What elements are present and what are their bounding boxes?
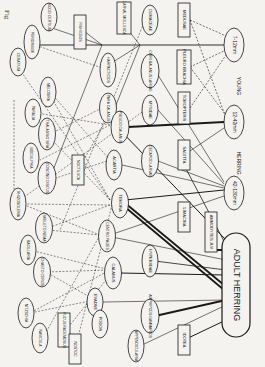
node-label: FISH EGGS (78, 22, 82, 42)
node-calanus: CALANUS (105, 257, 122, 289)
node-label: HARPACTICIDS (106, 57, 110, 83)
node-label: PSEUDO CALANUS (118, 111, 122, 144)
feeding-link (113, 45, 140, 62)
node-label: 12-42mm (232, 111, 238, 132)
node-label: LIMACINA (182, 208, 187, 227)
node-label: NOCTILUCA (76, 160, 80, 181)
node-hyperiidae: HYPERIIDAE (142, 245, 158, 277)
dashed-feeding-link (22, 204, 100, 235)
node-label: SKELETO NEMA (42, 214, 46, 242)
dashed-feeding-link (46, 270, 110, 272)
node-label: 42-130mm (232, 181, 238, 205)
node-thalass: THALASSIO SIRA (39, 118, 56, 150)
node-decapod: DECAPOD LARVAE (142, 145, 159, 178)
node-fishegg: FISH EGGS (74, 15, 86, 49)
node-cirripedia: CIRRI BALANUS LARVAE (141, 50, 159, 92)
node-sagitta: SAGITTA (178, 140, 190, 170)
node-peridinium: PERIDINIUM (24, 25, 40, 59)
node-label: CENTRO PAGES (105, 222, 109, 250)
node-fucus: FUCUS RACEMOSUS (58, 312, 70, 348)
node-adult: ADULT HERRING (222, 233, 250, 337)
dashed-feeding-link (30, 300, 95, 313)
node-label: APPENDICULARIA (134, 331, 138, 362)
node-label: IDOTEA (182, 333, 187, 348)
dashed-feeding-link (44, 235, 100, 336)
node-label: FUCUS RACEMOSUS (62, 312, 66, 348)
feeding-link (158, 110, 224, 184)
node-cumaceae: CUMACEAE (142, 5, 158, 35)
node-temora: TEMORA (112, 188, 129, 218)
node-label: RHIZOSOLENIA (16, 191, 20, 218)
node-label: BACILLARIA (26, 240, 30, 261)
node-tomopteris: TOMOPTERIS (178, 92, 190, 124)
feeding-link (158, 161, 224, 186)
node-label: NAVICULA (38, 329, 42, 347)
node-label: PODON (98, 317, 103, 332)
feeding-link (158, 75, 224, 182)
node-harpacticid: HARPACTICIDS (100, 53, 116, 87)
node-label: ADULT HERRING (232, 249, 242, 322)
node-idotea: IDOTEA (178, 325, 190, 355)
feeding-link (155, 300, 226, 316)
node-limacina: LIMACINA (178, 202, 190, 232)
node-chaeto: CHAETO CEROS (34, 257, 51, 287)
node-biddulphia: BIDDULPHIA (23, 143, 39, 173)
node-ammodytes: AMMODYTES JUV (205, 212, 217, 252)
node-bacillaria: BACILLARIA (20, 235, 36, 265)
node-label: PARA CALANUS (106, 95, 110, 122)
node-label: THALASSIO SIRA (45, 120, 49, 149)
node-label: AMPHIPODS GAMMARIDS (148, 294, 152, 338)
node-label: MELOSIRA (46, 83, 50, 102)
food-web-graph: ADULT HERRING7-12mm12-42mm42-130mmYOUNGH… (0, 0, 265, 367)
feeding-link (128, 122, 224, 127)
node-pleuro: PLEURO BRACHIA (177, 49, 191, 85)
node-label: NOSTOC (73, 342, 77, 357)
dashed-feeding-link (190, 20, 226, 118)
dashed-feeding-link (190, 50, 226, 67)
node-noctiluca: NOCTILUCA (72, 155, 84, 185)
node-label: COSCINO DISCUS (45, 163, 49, 194)
dashed-feeding-link (60, 20, 145, 230)
node-label: PARALIA (31, 106, 35, 121)
node-pseudocal: PSEUDO CALANUS (111, 111, 129, 144)
node-centropages: CENTRO PAGES (99, 220, 116, 252)
node-label: CALANUS (111, 264, 116, 283)
node-label: ACARTIA (112, 156, 117, 174)
node-label: EVADNE (93, 294, 98, 310)
node-herringtxt: HERRING (236, 151, 242, 174)
node-label: LARVAL MOLLUSCA (122, 1, 126, 35)
node-label: HYPERIIDAE (148, 249, 153, 274)
node-label: CERATIUM (16, 53, 20, 71)
node-nitzschia: NITZSCHIA (18, 298, 34, 328)
node-nostoc: NOSTOC (69, 334, 81, 364)
node-label: MEDUSAE (182, 10, 187, 30)
node-nodopsis: NODO CERTIUM (41, 3, 57, 31)
node-rhizosol: RHIZOSOLENIA (10, 188, 26, 220)
dashed-feeding-link (48, 230, 100, 235)
node-appendic: APPENDICULARIA (128, 330, 144, 362)
node-label: BIDDULPHIA (29, 147, 33, 169)
node-paralia: PARALIA (25, 99, 41, 127)
node-label: CHAETO CEROS (40, 258, 44, 287)
dashed-feeding-link (190, 55, 226, 108)
dashed-feeding-link (20, 70, 110, 200)
node-label: AMMODYTES JUV (209, 215, 214, 250)
dashed-feeding-link (24, 204, 110, 205)
node-ceratium: CERATIUM (10, 48, 26, 76)
node-navicula: NAVICULA (32, 323, 48, 353)
dashed-feeding-link (190, 20, 226, 36)
node-label: YOUNG (236, 77, 242, 95)
node-label: PLEURO BRACHIA (182, 49, 187, 85)
node-label: CIRRI BALANUS LARVAE (148, 50, 152, 92)
node-label: HERRING (236, 151, 242, 174)
node-young: YOUNG (236, 77, 242, 95)
feeding-link (103, 300, 226, 302)
node-coscino: COSCINO DISCUS (38, 162, 56, 194)
node-label: TEMORA (118, 194, 123, 211)
node-larvalmoll: LARVAL MOLLUSCA (117, 1, 131, 35)
node-label: TOMOPTERIS (182, 95, 187, 122)
node-mysidae: MYSIDAE (142, 95, 158, 125)
node-melosira: MELOSIRA (40, 77, 56, 107)
node-medusae: MEDUSAE (178, 3, 190, 37)
node-h42: 42-130mm (224, 176, 244, 210)
